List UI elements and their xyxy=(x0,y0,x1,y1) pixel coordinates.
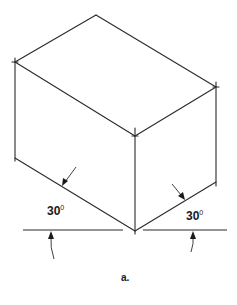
right-bottom-leader-arrow-icon xyxy=(190,231,196,252)
right-angle-label: 300 xyxy=(186,210,203,222)
box-vertical-edges xyxy=(15,58,216,234)
right-angle-degree: 0 xyxy=(199,209,203,216)
left-bottom-leader-arrow-icon xyxy=(48,231,54,259)
isometric-box-diagram xyxy=(0,0,237,305)
figure-caption: a. xyxy=(121,272,129,283)
left-angle-label: 300 xyxy=(47,205,64,217)
vertex-ticks xyxy=(12,62,219,136)
box-top-face xyxy=(15,15,216,136)
right-angle-value: 30 xyxy=(186,209,199,223)
left-angle-degree: 0 xyxy=(60,204,64,211)
left-angle-value: 30 xyxy=(47,204,60,218)
right-top-leader-arrow-icon xyxy=(172,184,185,200)
left-top-leader-arrow-icon xyxy=(62,167,76,186)
